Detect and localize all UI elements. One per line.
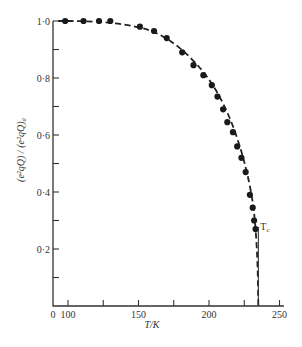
data-point xyxy=(214,93,220,99)
axis-lines xyxy=(53,21,284,306)
data-point xyxy=(190,62,196,68)
fit-curve xyxy=(58,21,258,306)
data-point xyxy=(164,35,170,41)
x-tick-label: 200 xyxy=(202,309,217,320)
x-tick-label: 250 xyxy=(272,309,287,320)
data-point xyxy=(250,205,256,211)
x-axis-title: T/K xyxy=(144,319,160,330)
tc-annotation: Tc xyxy=(258,221,269,306)
y-tick-label: 0·4 xyxy=(37,187,50,198)
y-tick-label: 1·0 xyxy=(37,16,50,27)
data-point xyxy=(247,192,253,198)
data-point xyxy=(96,18,102,24)
data-point xyxy=(251,217,257,223)
fit-curve-path xyxy=(58,21,258,306)
data-point xyxy=(80,18,86,24)
data-point xyxy=(137,24,143,30)
data-point xyxy=(238,155,244,161)
data-point xyxy=(107,18,113,24)
data-point xyxy=(220,106,226,112)
tc-label: Tc xyxy=(260,221,269,234)
y-tick-label: 0·6 xyxy=(37,130,50,141)
chart: 10015020025000·20·40·60·81·0 Tc T/K (e²q… xyxy=(0,0,302,347)
data-point xyxy=(62,18,68,24)
data-point xyxy=(234,143,240,149)
x-origin-label: 0 xyxy=(51,309,56,320)
y-tick-label: 0·2 xyxy=(37,244,50,255)
data-point xyxy=(243,169,249,175)
data-point xyxy=(230,129,236,135)
y-tick-label: 0·8 xyxy=(37,73,50,84)
data-point xyxy=(179,49,185,55)
data-points xyxy=(62,18,259,232)
data-point xyxy=(209,82,215,88)
data-point xyxy=(252,226,258,232)
data-point xyxy=(151,28,157,34)
tc-subscript: c xyxy=(266,226,269,234)
data-point xyxy=(224,119,230,125)
data-point xyxy=(200,72,206,78)
axes: 10015020025000·20·40·60·81·0 xyxy=(37,16,287,321)
y-axis-title: (e²qQ) / (e²qQ)₀ xyxy=(15,118,27,182)
x-tick-label: 100 xyxy=(61,309,76,320)
